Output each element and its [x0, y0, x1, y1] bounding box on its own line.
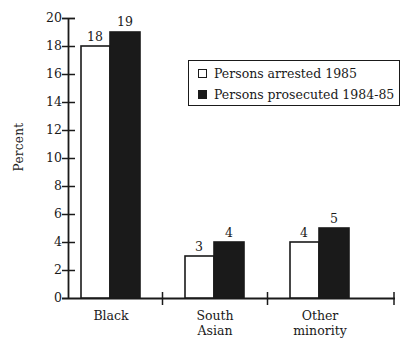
legend-swatch-filled-icon: [198, 90, 207, 99]
y-tick-label: 2: [28, 264, 62, 276]
bar-chart: Percent 20 18 16 14 12 10 8 6 4 2 0 18 1…: [0, 0, 413, 353]
legend-item-arrested: Persons arrested 1985: [198, 63, 399, 84]
bar-value-label: 19: [110, 15, 140, 28]
x-category-label-other-minority: Other minority: [280, 308, 360, 338]
legend-label: Persons arrested 1985: [214, 67, 357, 80]
y-tick-label: 6: [28, 208, 62, 220]
x-category-label-south-asian: South Asian: [175, 308, 255, 338]
bar-value-label: 18: [80, 30, 110, 43]
x-category-label-black: Black: [71, 308, 151, 323]
y-tick-label: 10: [28, 152, 62, 164]
y-tick-label: 0: [28, 292, 62, 304]
bar-value-label: 4: [289, 226, 319, 239]
bar-other-minority-arrested: [290, 242, 319, 298]
y-tick-label: 14: [28, 96, 62, 108]
legend-swatch-hollow-icon: [198, 69, 207, 78]
legend-item-prosecuted: Persons prosecuted 1984-85: [198, 84, 399, 105]
y-tick-label: 20: [28, 12, 62, 24]
y-tick-label: 18: [28, 40, 62, 52]
y-tick-label: 4: [28, 236, 62, 248]
y-tick-label: 16: [28, 68, 62, 80]
y-tick-label: 12: [28, 124, 62, 136]
legend-label: Persons prosecuted 1984-85: [214, 88, 394, 101]
y-tick-label: 8: [28, 180, 62, 192]
bar-black-prosecuted: [110, 32, 140, 298]
bar-black-arrested: [81, 46, 110, 298]
bar-south-asian-arrested: [185, 256, 214, 298]
bar-south-asian-prosecuted: [214, 242, 244, 298]
bar-value-label: 4: [214, 226, 244, 239]
bar-value-label: 3: [184, 240, 214, 253]
bar-other-minority-prosecuted: [319, 228, 349, 298]
chart-legend: Persons arrested 1985 Persons prosecuted…: [188, 60, 400, 106]
bar-value-label: 5: [319, 212, 349, 225]
y-tick-label-group: 20 18 16 14 12 10 8 6 4 2 0: [24, 0, 62, 353]
